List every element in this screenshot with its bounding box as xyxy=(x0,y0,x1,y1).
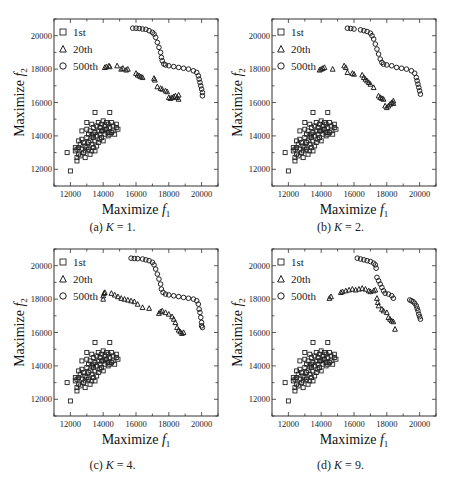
legend-label: 500th xyxy=(291,60,317,72)
y-tick-label: 12000 xyxy=(31,394,52,404)
series-500th xyxy=(355,256,423,322)
x-tick-label: 12000 xyxy=(278,419,299,429)
y-axis-label: Maximize f2 xyxy=(230,298,247,367)
legend-label: 1st xyxy=(73,256,86,268)
y-axis-label: Maximize f2 xyxy=(12,68,29,137)
legend-label: 1st xyxy=(291,26,304,38)
series-500th xyxy=(345,26,423,97)
y-tick-label: 14000 xyxy=(249,131,270,141)
legend: 1st20th500th xyxy=(278,26,317,72)
legend-label: 20th xyxy=(73,273,93,285)
series-500th xyxy=(129,256,205,330)
scatter-plot-d: 1200014000160001800020000120001400016000… xyxy=(218,230,443,435)
caption-var: K xyxy=(106,458,114,472)
legend-label: 20th xyxy=(291,43,311,55)
y-tick-label: 18000 xyxy=(249,294,270,304)
x-tick-label: 20000 xyxy=(409,419,430,429)
series-20th xyxy=(101,290,186,336)
x-tick-label: 12000 xyxy=(60,189,81,199)
x-axis-label: Maximize f1 xyxy=(320,202,389,219)
y-tick-label: 16000 xyxy=(31,328,52,338)
legend: 1st20th500th xyxy=(60,26,99,72)
caption-value: = 9. xyxy=(345,458,364,472)
x-tick-label: 20000 xyxy=(191,419,212,429)
x-tick-label: 16000 xyxy=(125,419,146,429)
legend-label: 1st xyxy=(291,256,304,268)
x-tick-label: 14000 xyxy=(311,189,332,199)
y-tick-label: 20000 xyxy=(31,261,52,271)
legend: 1st20th500th xyxy=(278,256,317,302)
legend-label: 1st xyxy=(73,26,86,38)
x-axis-label: Maximize f1 xyxy=(102,202,171,219)
y-tick-label: 18000 xyxy=(31,294,52,304)
y-tick-label: 14000 xyxy=(31,131,52,141)
series-1st xyxy=(65,341,120,403)
x-tick-label: 18000 xyxy=(376,419,397,429)
x-tick-label: 20000 xyxy=(409,189,430,199)
y-tick-label: 14000 xyxy=(249,361,270,371)
y-tick-label: 14000 xyxy=(31,361,52,371)
series-1st xyxy=(283,111,338,173)
x-tick-label: 18000 xyxy=(376,189,397,199)
panel-b: 1200014000160001800020000120001400016000… xyxy=(218,0,443,240)
series-20th xyxy=(102,63,181,101)
scatter-plot-c: 1200014000160001800020000120001400016000… xyxy=(0,230,225,435)
x-tick-label: 16000 xyxy=(343,189,364,199)
legend-label: 500th xyxy=(291,290,317,302)
legend-label: 20th xyxy=(73,43,93,55)
series-1st xyxy=(283,341,338,403)
legend: 1st20th500th xyxy=(60,256,99,302)
y-tick-label: 12000 xyxy=(249,164,270,174)
panel-d: 1200014000160001800020000120001400016000… xyxy=(218,230,443,470)
x-tick-label: 18000 xyxy=(158,419,179,429)
series-20th xyxy=(317,63,396,109)
y-tick-label: 18000 xyxy=(249,64,270,74)
x-axis-label: Maximize f1 xyxy=(320,432,389,449)
series-1st xyxy=(65,111,120,173)
series-500th xyxy=(130,26,204,98)
legend-label: 500th xyxy=(73,290,99,302)
caption-value: = 4. xyxy=(117,458,136,472)
y-tick-label: 12000 xyxy=(249,394,270,404)
caption-prefix: (c) xyxy=(89,458,102,472)
y-tick-label: 12000 xyxy=(31,164,52,174)
x-tick-label: 12000 xyxy=(60,419,81,429)
y-tick-label: 16000 xyxy=(249,98,270,108)
caption-d: (d) K = 9. xyxy=(228,458,451,473)
y-tick-label: 20000 xyxy=(31,31,52,41)
y-tick-label: 18000 xyxy=(31,64,52,74)
y-tick-label: 20000 xyxy=(249,31,270,41)
x-tick-label: 16000 xyxy=(125,189,146,199)
caption-var: K xyxy=(334,458,342,472)
x-tick-label: 14000 xyxy=(311,419,332,429)
x-tick-label: 12000 xyxy=(278,189,299,199)
y-axis-label: Maximize f2 xyxy=(12,298,29,367)
caption-c: (c) K = 4. xyxy=(0,458,225,473)
y-tick-label: 20000 xyxy=(249,261,270,271)
panel-a: 1200014000160001800020000120001400016000… xyxy=(0,0,225,240)
legend-label: 500th xyxy=(73,60,99,72)
x-tick-label: 16000 xyxy=(343,419,364,429)
panel-c: 1200014000160001800020000120001400016000… xyxy=(0,230,225,470)
x-tick-label: 18000 xyxy=(158,189,179,199)
x-tick-label: 20000 xyxy=(191,189,212,199)
caption-prefix: (d) xyxy=(317,458,331,472)
scatter-plot-a: 1200014000160001800020000120001400016000… xyxy=(0,0,225,205)
y-tick-label: 16000 xyxy=(31,98,52,108)
y-axis-label: Maximize f2 xyxy=(230,68,247,137)
y-tick-label: 16000 xyxy=(249,328,270,338)
x-tick-label: 14000 xyxy=(93,189,114,199)
x-tick-label: 14000 xyxy=(93,419,114,429)
legend-label: 20th xyxy=(291,273,311,285)
x-axis-label: Maximize f1 xyxy=(102,432,171,449)
scatter-plot-b: 1200014000160001800020000120001400016000… xyxy=(218,0,443,205)
